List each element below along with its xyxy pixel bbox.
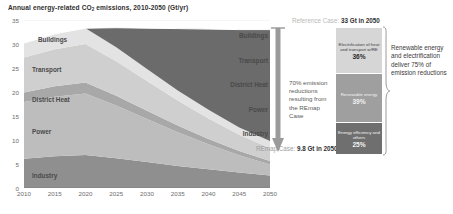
contribution-caption-energy-efficiency: Energy efficiency and others — [338, 130, 380, 140]
x-tick-2020: 2020 — [79, 190, 93, 197]
remap-case-annotation: REmap Case: 9.8 Gt in 2050 — [256, 145, 338, 152]
chart-title-suffix: emissions, 2010-2050 (Gt/yr) — [94, 4, 188, 11]
y-tick-30: 30 — [12, 41, 19, 48]
x-tick-2030: 2030 — [140, 190, 154, 197]
contribution-segment-electrification: Electrification of heat and transport w/… — [336, 28, 382, 73]
y-axis: 0 5 10 15 20 25 30 35 — [0, 20, 22, 188]
x-axis: 2010 2015 2020 2025 2030 2035 2040 2045 … — [24, 190, 270, 204]
reference-case-annotation: Reference Case: 33 Gt in 2050 — [292, 17, 380, 24]
x-tick-2035: 2035 — [171, 190, 185, 197]
x-tick-2045: 2045 — [232, 190, 246, 197]
contribution-caption-electrification: Electrification of heat and transport w/… — [338, 42, 380, 52]
x-tick-2040: 2040 — [202, 190, 216, 197]
contribution-caption-renewable-energy: Renewable energy — [341, 92, 378, 97]
remap-case-value: 9.8 Gt in 2050 — [297, 145, 338, 152]
x-tick-2010: 2010 — [17, 190, 31, 197]
y-tick-20: 20 — [12, 89, 19, 96]
brace-icon — [382, 26, 391, 156]
contribution-segment-renewable-energy: Renewable energy 39% — [336, 74, 382, 122]
contribution-segment-energy-efficiency: Energy efficiency and others 25% — [336, 123, 382, 154]
reference-case-label: Reference Case: — [292, 17, 339, 24]
y-tick-25: 25 — [12, 65, 19, 72]
chart-title: Annual energy-related CO2 emissions, 201… — [8, 4, 188, 11]
y-tick-15: 15 — [12, 113, 19, 120]
chart-figure: Annual energy-related CO2 emissions, 201… — [0, 0, 453, 214]
x-tick-2025: 2025 — [109, 190, 123, 197]
area-chart-svg — [24, 20, 270, 188]
contribution-percent-electrification: 36% — [352, 53, 365, 60]
reduction-note: 70% emission reductions resulting from t… — [289, 79, 335, 120]
y-tick-35: 35 — [12, 17, 19, 24]
plot-area: Buildings Transport District Heat Power … — [24, 20, 270, 188]
emission-gap-arrow-icon — [271, 26, 285, 152]
right-note: Renewable energy and electrification del… — [391, 44, 451, 78]
contribution-percent-energy-efficiency: 25% — [352, 141, 365, 148]
chart-title-prefix: Annual energy-related CO — [8, 4, 92, 11]
contribution-percent-renewable-energy: 39% — [352, 98, 365, 105]
y-tick-5: 5 — [16, 161, 19, 168]
y-tick-10: 10 — [12, 137, 19, 144]
x-tick-2015: 2015 — [48, 190, 62, 197]
reference-case-value: 33 Gt in 2050 — [341, 17, 380, 24]
x-tick-2050: 2050 — [263, 190, 277, 197]
contribution-breakdown: Electrification of heat and transport w/… — [336, 28, 382, 154]
